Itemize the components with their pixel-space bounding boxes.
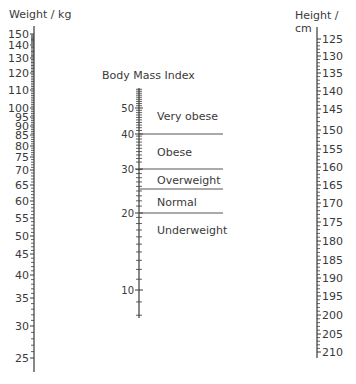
- weight-tick-label: 140: [8, 39, 29, 52]
- bmi-tick-label: 40: [121, 129, 134, 140]
- weight-tick-label: 30: [15, 320, 29, 333]
- height-tick-label: 150: [322, 124, 343, 137]
- weight-tick-label: 35: [15, 292, 29, 305]
- height-scale: 1251301351401451501551601651701751801851…: [317, 27, 343, 359]
- weight-tick-label: 65: [15, 179, 29, 192]
- bmi-category-label: Overweight: [157, 174, 221, 187]
- bmi-nomogram: 1501401301201101009590858075706560555045…: [0, 0, 356, 384]
- height-tick-label: 200: [322, 309, 343, 322]
- height-scale-title: Height / cm: [295, 9, 356, 35]
- height-tick-label: 185: [322, 254, 343, 267]
- height-tick-label: 130: [322, 50, 343, 63]
- bmi-tick-label: 10: [121, 285, 134, 296]
- height-tick-label: 135: [322, 67, 343, 80]
- height-tick-label: 180: [322, 235, 343, 248]
- weight-tick-label: 75: [15, 151, 29, 164]
- height-tick-label: 175: [322, 216, 343, 229]
- weight-tick-label: 40: [15, 269, 29, 282]
- height-tick-label: 160: [322, 161, 343, 174]
- weight-tick-label: 120: [8, 67, 29, 80]
- bmi-category-label: Underweight: [157, 224, 228, 237]
- weight-tick-label: 45: [15, 248, 29, 261]
- bmi-tick-label: 50: [121, 103, 134, 114]
- bmi-category-label: Obese: [157, 146, 192, 159]
- weight-tick-label: 110: [8, 84, 29, 97]
- bmi-scale-title: Body Mass Index: [102, 69, 195, 82]
- weight-tick-label: 130: [8, 52, 29, 65]
- weight-tick-label: 60: [15, 195, 29, 208]
- height-tick-label: 155: [322, 143, 343, 156]
- bmi-tick-label: 20: [121, 208, 134, 219]
- bmi-scale: 5040302010Very obeseObeseOverweightNorma…: [121, 88, 228, 318]
- height-tick-label: 195: [322, 290, 343, 303]
- bmi-category-label: Normal: [157, 196, 197, 209]
- bmi-category-label: Very obese: [157, 110, 218, 123]
- height-tick-label: 205: [322, 328, 343, 341]
- height-tick-label: 190: [322, 272, 343, 285]
- height-tick-label: 140: [322, 85, 343, 98]
- height-tick-label: 165: [322, 179, 343, 192]
- height-tick-label: 145: [322, 103, 343, 116]
- weight-scale-title: Weight / kg: [9, 8, 71, 21]
- weight-tick-label: 50: [15, 230, 29, 243]
- bmi-tick-label: 30: [121, 164, 134, 175]
- weight-tick-label: 70: [15, 164, 29, 177]
- height-tick-label: 210: [322, 346, 343, 359]
- weight-scale: 1501401301201101009590858075706560555045…: [8, 26, 34, 372]
- weight-tick-label: 55: [15, 212, 29, 225]
- weight-tick-label: 25: [15, 352, 29, 365]
- height-tick-label: 170: [322, 197, 343, 210]
